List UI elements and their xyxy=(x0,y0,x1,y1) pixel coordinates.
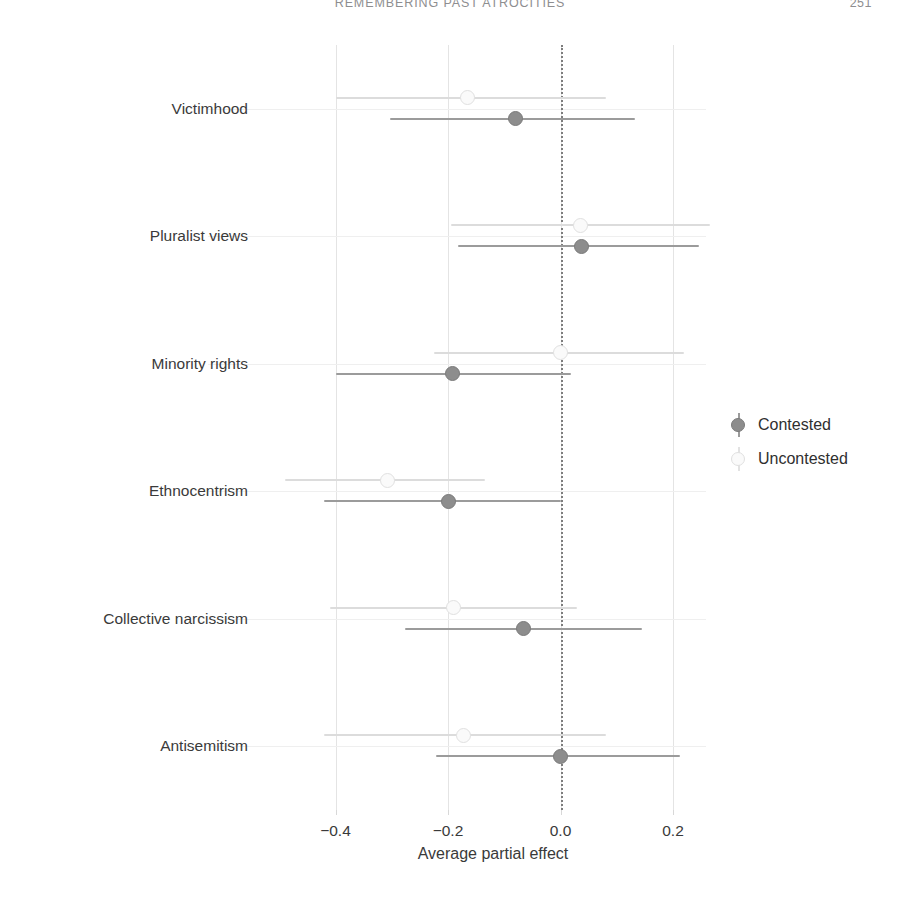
estimate-point xyxy=(441,494,456,509)
gridline-horizontal xyxy=(208,364,706,365)
estimate-point xyxy=(460,90,475,105)
estimate-point xyxy=(553,345,568,360)
gridline-horizontal xyxy=(208,491,706,492)
y-axis-tick-label: Antisemitism xyxy=(160,737,248,755)
gridline-horizontal xyxy=(208,236,706,237)
x-axis-tick-label: 0.0 xyxy=(550,822,572,840)
estimate-point xyxy=(516,621,531,636)
uncontested-marker-icon xyxy=(726,446,752,472)
estimate-point xyxy=(380,473,395,488)
gridline-vertical xyxy=(673,45,674,810)
contested-marker-icon xyxy=(726,412,752,438)
x-axis-tick-label: 0.2 xyxy=(662,822,684,840)
zero-reference-line xyxy=(561,45,563,810)
gridline-vertical xyxy=(448,45,449,810)
x-axis-tick-mark xyxy=(448,810,449,815)
x-axis-tick-label: −0.4 xyxy=(320,822,351,840)
legend-label: Contested xyxy=(758,416,831,434)
x-axis-tick-mark xyxy=(561,810,562,815)
x-axis-tick-mark xyxy=(336,810,337,815)
legend-key-dot xyxy=(731,418,745,432)
estimate-point xyxy=(573,218,588,233)
legend: ContestedUncontested xyxy=(726,408,891,476)
estimate-point xyxy=(553,749,568,764)
y-axis-tick-label: Victimhood xyxy=(172,100,248,118)
estimate-point xyxy=(508,111,523,126)
legend-key-dot xyxy=(731,452,745,466)
y-axis-labels: VictimhoodPluralist viewsMinority rights… xyxy=(0,45,248,810)
legend-item-contested[interactable]: Contested xyxy=(726,408,891,442)
estimate-point xyxy=(446,600,461,615)
y-axis-tick-label: Pluralist views xyxy=(150,227,248,245)
plot-area xyxy=(268,45,718,810)
y-axis-tick-label: Minority rights xyxy=(152,355,248,373)
x-axis-ticks: −0.4−0.20.00.2 xyxy=(268,810,718,844)
gridline-horizontal xyxy=(208,746,706,747)
legend-label: Uncontested xyxy=(758,450,848,468)
y-axis-tick-label: Ethnocentrism xyxy=(149,482,248,500)
gridline-horizontal xyxy=(208,109,706,110)
x-axis-tick-mark xyxy=(673,810,674,815)
y-axis-tick-label: Collective narcissism xyxy=(103,610,248,628)
gridline-horizontal xyxy=(208,619,706,620)
forest-plot-figure: VictimhoodPluralist viewsMinority rights… xyxy=(0,0,900,909)
x-axis-tick-label: −0.2 xyxy=(433,822,464,840)
legend-item-uncontested[interactable]: Uncontested xyxy=(726,442,891,476)
x-axis-title: Average partial effect xyxy=(268,845,718,863)
estimate-point xyxy=(574,239,589,254)
estimate-point xyxy=(456,728,471,743)
gridline-vertical xyxy=(336,45,337,810)
estimate-point xyxy=(445,366,460,381)
